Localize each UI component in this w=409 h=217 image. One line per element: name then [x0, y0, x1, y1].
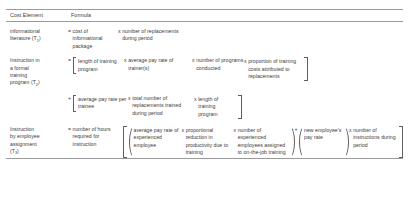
term-text: number of instructions during period — [353, 127, 397, 149]
formula-term: x total number of replacements trained d… — [128, 95, 194, 117]
term-text: length of training program — [78, 58, 124, 73]
formula-expression: = length of training program x average p… — [68, 57, 403, 81]
cost-element-label: informational literature (T1) — [6, 28, 68, 44]
paren-group-contents: average pay rate of experienced employee… — [134, 126, 290, 158]
bracket-group-contents: length of training program — [78, 57, 124, 74]
square-bracket-open-icon — [73, 95, 77, 112]
bracket-group-contents: x length of training program — [194, 95, 236, 119]
cost-element-label-line: Instruction — [10, 126, 68, 133]
term-text: number of hours required for instruction — [73, 126, 123, 148]
term-text: proportional reduction in productivity d… — [186, 127, 234, 157]
cost-element-formula-table: Cost Element Formula informational liter… — [0, 9, 409, 217]
outer-bracket-group: average pay rate of experienced employee… — [123, 126, 403, 158]
header-formula: Formula — [68, 12, 403, 19]
paren-close-icon — [344, 126, 349, 158]
square-bracket-close-icon — [304, 57, 308, 81]
cost-element-label-line: Instruction in — [10, 57, 68, 64]
square-bracket-close-icon — [238, 95, 242, 119]
formula-term: = cost of informational package — [68, 28, 118, 50]
formula-term: length of training program — [78, 58, 124, 73]
subscript: 2 — [36, 83, 38, 87]
formula-expression: = number of hours required for instructi… — [68, 126, 403, 158]
table-bottom-rule — [6, 158, 403, 159]
term-text: length of training program — [198, 96, 236, 118]
square-bracket-open-icon — [123, 126, 127, 158]
cost-element-label-line: literature (T1) — [10, 35, 68, 43]
table-row: Instruction by employee assignment (T3) … — [6, 126, 403, 158]
cost-element-label: Instruction by employee assignment (T3) — [6, 126, 68, 157]
formula-term: x number of replacements during period — [118, 28, 180, 43]
cost-element-label-line: assignment — [10, 141, 68, 148]
formula-expression: + average pay rate per trainee x total n… — [68, 95, 403, 119]
formula-term: = number of hours required for instructi… — [68, 126, 123, 148]
formula-term: x proportional reduction in productivity… — [182, 127, 234, 157]
paren-open-icon — [299, 126, 304, 158]
outer-bracket-contents: x number of instructions during period — [349, 126, 397, 158]
paren-open-icon — [129, 126, 134, 158]
paren-group: average pay rate of experienced employee… — [129, 126, 295, 158]
formula-term: x number of programs conducted — [192, 57, 244, 72]
term-text: cost of informational package — [73, 28, 118, 50]
cost-element-label-line: training — [10, 72, 68, 79]
formula-term: x average pay rate of trainer(s) — [124, 57, 192, 72]
subscript: 3 — [15, 151, 17, 155]
bracket-group: length of training program — [73, 57, 125, 74]
term-text: total number of replacements trained dur… — [132, 95, 194, 117]
term-text: number of experienced employees assigned… — [238, 127, 290, 157]
subscript: 1 — [37, 39, 39, 43]
bracket-group: average pay rate per trainee — [73, 95, 129, 112]
table-row-continuation: + average pay rate per trainee x total n… — [6, 95, 403, 119]
cost-element-label-line: a formal — [10, 65, 68, 72]
table-body: informational literature (T1) = cost of … — [6, 22, 403, 158]
formula-expression: = cost of informational package x number… — [68, 28, 403, 50]
formula-term: x number of instructions during period — [349, 127, 397, 149]
formula-term: average pay rate of experienced employee — [134, 127, 182, 149]
table-row: informational literature (T1) = cost of … — [6, 28, 403, 50]
formula-term: x proportion of training costs attribute… — [244, 58, 302, 80]
table-row: Instruction in a formal training program… — [6, 57, 403, 88]
bracket-group-contents: average pay rate per trainee — [78, 95, 128, 112]
term-text: average pay rate per trainee — [78, 96, 128, 111]
square-bracket-open-icon — [73, 57, 77, 74]
term-text: average pay rate of experienced employee — [134, 127, 182, 149]
paren-group: new employee's pay rate — [299, 126, 349, 158]
term-text: number of replacements during period — [122, 28, 180, 43]
cost-element-label-line: (T3) — [10, 148, 68, 156]
cost-element-label-line: informational — [10, 28, 68, 35]
bracket-group: x length of training program — [194, 95, 242, 119]
table-header-row: Cost Element Formula — [6, 10, 403, 21]
paren-close-icon — [290, 126, 295, 158]
term-text: average pay rate of trainer(s) — [128, 57, 192, 72]
term-text: number of programs conducted — [196, 57, 244, 72]
formula-term: x number of experienced employees assign… — [234, 127, 290, 157]
header-cost-element: Cost Element — [6, 12, 68, 19]
term-text: proportion of training costs attributed … — [248, 58, 302, 80]
cost-element-label-line: by employee — [10, 133, 68, 140]
bracket-group: x proportion of training costs attribute… — [244, 57, 308, 81]
square-bracket-close-icon — [399, 126, 403, 158]
bracket-group-contents: x proportion of training costs attribute… — [244, 57, 302, 81]
cost-element-label: Instruction in a formal training program… — [6, 57, 68, 88]
formula-term: x length of training program — [194, 96, 236, 118]
cost-element-label-line: program (T2) — [10, 79, 68, 87]
formula-term: average pay rate per trainee — [78, 96, 128, 111]
